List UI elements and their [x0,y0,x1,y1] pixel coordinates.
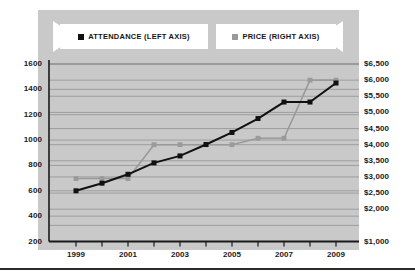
legend-label-attendance: ATTENDANCE (LEFT AXIS) [88,32,190,41]
y-axis-right-tick-2000: $2,000 [364,205,408,213]
series-line-attendance [76,83,336,191]
y-axis-right-tick-3000: $3,000 [364,173,408,181]
chart-figure: 1600 1400 1200 1000 800 600 400 200 $6,5… [0,0,415,277]
legend-item-attendance[interactable]: ATTENDANCE (LEFT AXIS) [60,24,208,49]
y-axis-right-tick-4500: $4,500 [364,125,408,133]
chart-legend: ATTENDANCE (LEFT AXIS) PRICE (RIGHT AXIS… [53,21,343,52]
y-axis-right-tick-3500: $3,500 [364,157,408,165]
axis-lines [49,60,359,242]
y-axis-left-tick-800: 800 [8,161,42,169]
y-axis-right-tick-2500: $2,500 [364,189,408,197]
legend-item-price[interactable]: PRICE (RIGHT AXIS) [216,24,336,49]
y-axis-left-tick-600: 600 [8,187,42,195]
x-axis-tick-2003: 2003 [160,251,200,259]
x-axis-tick-2009: 2009 [316,251,356,259]
series-markers-attendance [74,81,339,194]
x-axis-tick-2005: 2005 [212,251,252,259]
legend-swatch-attendance-icon [78,34,84,40]
footer-divider [0,268,415,270]
x-axis-tick-2007: 2007 [264,251,304,259]
y-axis-left-tick-1600: 1600 [8,60,42,68]
y-axis-right-tick-4000: $4,000 [364,141,408,149]
y-axis-left-tick-200: 200 [8,238,42,246]
legend-label-price: PRICE (RIGHT AXIS) [242,32,319,41]
y-axis-right-tick-1000: $1,000 [364,238,408,246]
y-axis-left-tick-1400: 1400 [8,85,42,93]
y-axis-left-tick-1200: 1200 [8,111,42,119]
y-axis-right-tick-6000: $6,000 [364,76,408,84]
series-line-price [76,80,336,178]
x-axis-tick-2001: 2001 [108,251,148,259]
y-axis-left-tick-1000: 1000 [8,136,42,144]
y-axis-right-tick-5500: $5,500 [364,92,408,100]
legend-swatch-price-icon [232,34,238,40]
x-axis-tick-1999: 1999 [56,251,96,259]
y-axis-left-tick-400: 400 [8,212,42,220]
y-axis-right-tick-6500: $6,500 [364,60,408,68]
y-axis-right-tick-5000: $5,000 [364,108,408,116]
